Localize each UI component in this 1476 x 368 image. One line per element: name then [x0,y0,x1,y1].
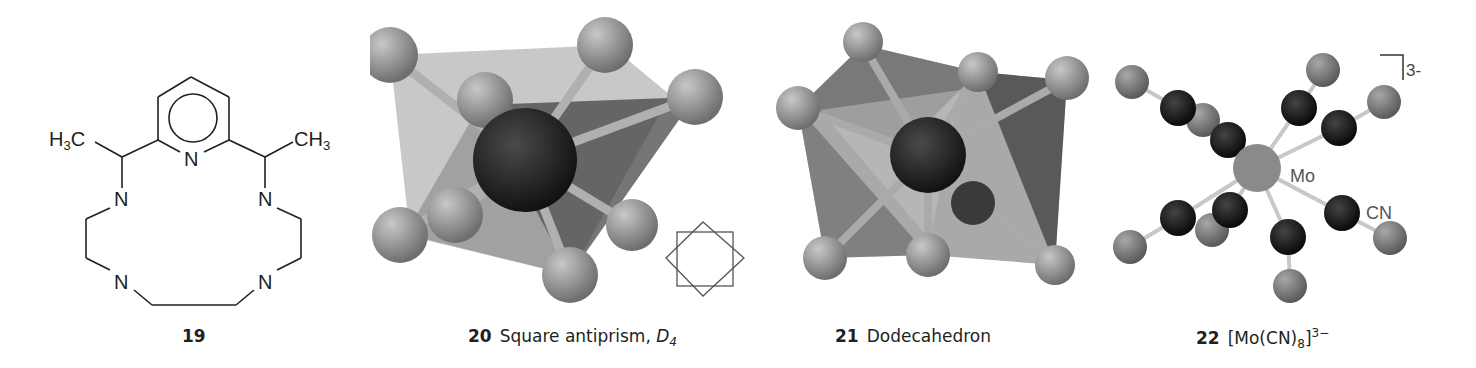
figure-20: 20Square antiprism, D4 [370,0,770,368]
methyl-left-label: H3C [49,128,85,153]
mo-label: Mo [1290,166,1315,186]
antiprism-symbol-icon [666,222,744,296]
dodecahedron-model [760,0,1090,368]
formula-subscript: 8 [1297,337,1305,351]
figure-21: 21Dodecahedron [760,0,1090,368]
central-metal-atom [473,108,577,212]
amine-n-label: N [114,188,128,210]
figure-22: Mo CN 3- 22[Mo(CN)8]3− [1090,0,1476,368]
symmetry-symbol: D [656,326,669,346]
figure-21-caption: 21Dodecahedron [835,326,991,346]
formula-open: [Mo(CN) [1228,328,1298,348]
charge-bracket [1380,55,1403,80]
mo-cn8-model: Mo CN 3- [1090,0,1476,368]
figure-number: 20 [468,326,492,346]
figure-20-caption: 20Square antiprism, D4 [468,326,677,349]
symmetry-subscript: 4 [669,335,677,349]
formula-charge: 3− [1312,326,1330,340]
figure-label: Dodecahedron [867,326,991,346]
figure-number: 21 [835,326,859,346]
charge-label: 3- [1406,61,1421,80]
mo-atom [1233,144,1281,192]
figure-22-caption: 22[Mo(CN)8]3− [1196,326,1329,351]
cn-label: CN [1366,203,1392,223]
figure-number: 22 [1196,328,1220,348]
figure-number: 19 [182,326,206,346]
amine-n-label: N [258,188,272,210]
figure-19-caption: 19 [182,326,214,346]
pyridine-n-label: N [184,148,198,170]
amine-n-label: N [114,271,128,293]
figure-label: Square antiprism, [500,326,657,346]
formula-close: ] [1305,328,1312,348]
square-antiprism-model [370,0,770,368]
methyl-right-label: CH3 [294,128,330,153]
figure-19: N N N N N H3C CH3 19 [0,0,370,368]
amine-n-label: N [258,271,272,293]
central-metal-atom [890,117,966,193]
macrocycle-structure: N N N N N H3C CH3 [0,0,370,368]
